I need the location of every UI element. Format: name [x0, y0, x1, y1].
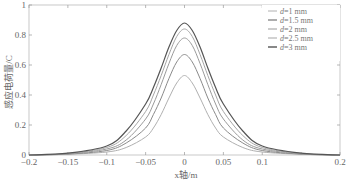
legend-item-label: d=1 mm	[280, 7, 308, 16]
x-tick-label: −0.2	[21, 157, 37, 167]
x-tick-label: 0.1	[257, 157, 268, 167]
series-line-d-1-mm	[29, 76, 340, 156]
legend-item-label: d=2.5 mm	[280, 34, 314, 43]
x-tick-label: −0.15	[57, 157, 78, 167]
x-tick-label: 0.2	[334, 157, 345, 167]
y-tick-label: 1	[22, 0, 27, 10]
y-tick-label: 0.6	[15, 60, 27, 70]
y-axis-label: 感应电荷量/C	[3, 55, 14, 109]
y-tick-label: 0.4	[15, 90, 27, 100]
y-tick-label: 0.8	[15, 30, 27, 40]
chart: 00.20.40.60.81 −0.2−0.15−0.1−0.0500.050.…	[0, 0, 350, 180]
x-axis-label: x轴/m	[174, 169, 197, 180]
legend-item-label: d=1.5 mm	[280, 16, 314, 25]
legend: d=1 mmd=1.5 mmd=2 mmd=2.5 mmd=3 mm	[262, 5, 340, 61]
x-tick-label: 0.05	[216, 157, 232, 167]
x-tick-label: −0.05	[135, 157, 156, 167]
legend-item-label: d=2 mm	[280, 25, 308, 34]
x-tick-label: 0	[182, 157, 187, 167]
y-tick-label: 0.2	[15, 120, 26, 130]
legend-item-label: d=3 mm	[280, 43, 308, 52]
x-tick-label: −0.1	[99, 157, 115, 167]
series-line-d-1.5-mm	[29, 55, 340, 156]
